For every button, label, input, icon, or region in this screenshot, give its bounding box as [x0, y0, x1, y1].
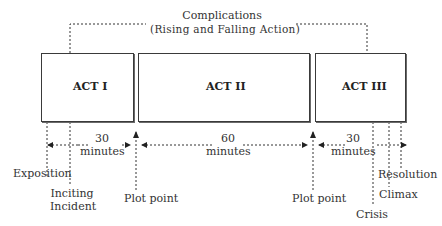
duration-3-value: 30	[341, 133, 365, 145]
duration-2-unit: minutes	[206, 146, 250, 158]
duration-1-value: 30	[90, 133, 114, 145]
act-1-label: ACT I	[73, 80, 107, 93]
inciting-incident-label-2: Incident	[50, 201, 94, 213]
duration-3-unit: minutes	[331, 146, 375, 158]
complications-sublabel: (Rising and Falling Action)	[150, 23, 294, 35]
complications-label: Complications	[150, 10, 294, 22]
inciting-incident-label-1: Inciting	[50, 188, 94, 200]
crisis-label: Crisis	[356, 209, 388, 221]
plot-point-2-label: Plot point	[292, 193, 346, 205]
duration-2-value: 60	[216, 133, 240, 145]
resolution-label: Resolution	[378, 169, 437, 181]
act-3-label: ACT III	[342, 80, 387, 93]
plot-point-1-label: Plot point	[124, 193, 178, 205]
climax-label: Climax	[379, 189, 418, 201]
act-2-label: ACT II	[206, 80, 246, 93]
exposition-label: Exposition	[13, 168, 72, 180]
duration-1-unit: minutes	[80, 146, 124, 158]
